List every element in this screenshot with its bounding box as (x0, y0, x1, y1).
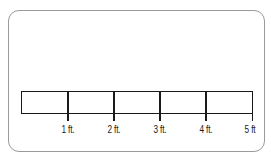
tick-3 (159, 91, 161, 121)
scale-bar (21, 91, 253, 114)
tick-1 (67, 91, 69, 121)
tick-2 (113, 91, 115, 121)
tick-label-1: 1 ft. (61, 123, 74, 135)
tick-label-3: 3 ft. (153, 123, 166, 135)
tick-label-4: 4 ft. (199, 123, 212, 135)
card-frame (8, 10, 265, 152)
tick-5 (252, 91, 254, 121)
tick-4 (205, 91, 207, 121)
tick-label-2: 2 ft. (107, 123, 120, 135)
tick-label-5: 5 ft (245, 123, 256, 135)
